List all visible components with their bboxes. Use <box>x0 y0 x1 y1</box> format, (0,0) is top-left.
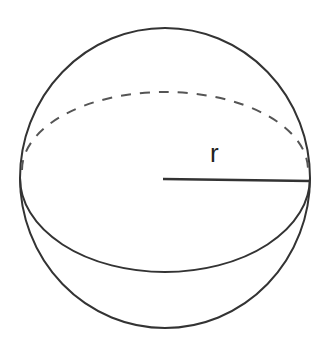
radius-label: r <box>210 138 219 168</box>
equator-front-arc <box>20 178 310 272</box>
equator-back-arc-dashed <box>22 92 308 170</box>
sphere-diagram: r <box>0 0 322 345</box>
radius-line <box>163 179 310 181</box>
